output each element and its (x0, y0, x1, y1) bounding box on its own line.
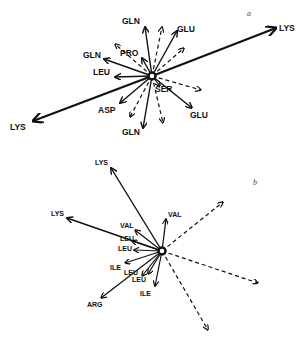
lys-vector-arrow (33, 76, 152, 121)
lys-label: LYS (51, 210, 64, 217)
panel-b: LYSLYSVALLEULEUILELEULEUILEARGVAL (51, 159, 258, 330)
asp-vector-arrow (120, 76, 152, 103)
unlabeled-vector-arrow (162, 202, 223, 251)
origin-hub (159, 248, 166, 255)
val-label: VAL (120, 222, 134, 229)
gln-vector-arrow (104, 59, 152, 76)
origin-hub (149, 73, 156, 80)
gln-label: GLN (83, 50, 101, 60)
gln-label: GLN (122, 16, 140, 26)
unlabeled-vector-arrow (162, 251, 258, 283)
lys-label: LYS (279, 23, 295, 33)
unlabeled-vector-arrow (152, 27, 162, 76)
leu-label: LEU (93, 67, 110, 77)
arg-label: ARG (87, 301, 103, 308)
unlabeled-vector-arrow (162, 251, 208, 330)
panel-label-a: a (247, 9, 251, 18)
leu-label: LEU (118, 245, 132, 252)
lys-label: LYS (10, 122, 26, 132)
asp-label: ASP (98, 105, 116, 115)
lys-vector-arrow (111, 168, 162, 251)
vector-diagram: LYSLYSGLNGLUPROGLNLEUSERGLUASPGLN LYSLYS… (0, 0, 301, 345)
panel-a: LYSLYSGLNGLUPROGLNLEUSERGLUASPGLN (10, 16, 295, 137)
leu-label: LEU (132, 276, 146, 283)
ile-label: ILE (110, 264, 121, 271)
arg-vector-arrow (101, 251, 162, 298)
glu-label: GLU (190, 110, 208, 120)
leu-label: LEU (120, 235, 134, 242)
lys-label: LYS (95, 159, 108, 166)
glu-label: GLU (177, 24, 195, 34)
glu-vector-arrow (152, 31, 177, 76)
gln-label: GLN (122, 127, 140, 137)
val-vector-arrow (162, 219, 166, 251)
val-vector-arrow (135, 230, 162, 251)
ile-label: ILE (140, 290, 151, 297)
leu-vector-arrow (115, 76, 152, 77)
val-label: VAL (168, 211, 182, 218)
lys-vector-arrow (152, 28, 276, 76)
panel-label-b: b (253, 178, 257, 187)
